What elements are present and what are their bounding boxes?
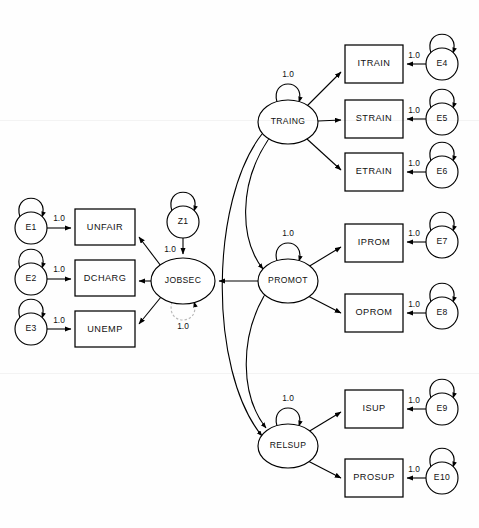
loading-traing-etrain (307, 139, 341, 170)
node-e3-label: E3 (25, 323, 36, 333)
node-itrain[interactable]: ITRAIN (345, 45, 403, 83)
node-e3[interactable]: E3 (15, 313, 47, 345)
node-e2[interactable]: E2 (15, 263, 47, 295)
node-e8[interactable]: E8 (426, 297, 458, 329)
node-prosup-label: PROSUP (353, 472, 395, 482)
variance-label-traing: 1.0 (282, 69, 294, 79)
sem-path-diagram: UNFAIR DCHARG UNEMP ITRAIN STRAIN ETRAIN (0, 0, 479, 528)
node-promot-label: PROMOT (268, 275, 308, 285)
node-traing[interactable]: TRAING (258, 100, 318, 144)
node-e8-label: E8 (436, 307, 447, 317)
loading-jobsec-unemp (139, 297, 161, 324)
variance-label-promot: 1.0 (282, 228, 294, 238)
node-e5[interactable]: E5 (426, 103, 458, 135)
node-isup-label: ISUP (362, 403, 385, 413)
node-z1-label: Z1 (178, 216, 189, 226)
node-dcharg-label: DCHARG (84, 273, 127, 283)
node-itrain-label: ITRAIN (358, 58, 391, 68)
loading-promot-oprom (308, 296, 341, 313)
edge-label-e7-iprom: 1.0 (408, 228, 420, 238)
node-e9-label: E9 (436, 403, 447, 413)
node-relsup-label: RELSUP (270, 440, 307, 450)
node-e7-label: E7 (436, 236, 447, 246)
edge-label-e2-dcharg: 1.0 (53, 264, 65, 274)
loading-promot-iprom (308, 247, 341, 267)
node-oprom-label: OPROM (356, 307, 393, 317)
node-e9[interactable]: E9 (426, 393, 458, 425)
edge-label-e1-unfair: 1.0 (53, 213, 65, 223)
node-prosup[interactable]: PROSUP (345, 459, 403, 497)
node-isup[interactable]: ISUP (345, 390, 403, 428)
node-oprom[interactable]: OPROM (345, 294, 403, 332)
node-e10[interactable]: E10 (426, 462, 458, 494)
diagram-canvas: UNFAIR DCHARG UNEMP ITRAIN STRAIN ETRAIN (0, 0, 479, 528)
edge-label-e6-etrain: 1.0 (408, 158, 420, 168)
node-strain[interactable]: STRAIN (345, 100, 403, 138)
node-e2-label: E2 (25, 273, 36, 283)
node-e6[interactable]: E6 (426, 156, 458, 188)
node-e4-label: E4 (436, 58, 447, 68)
edge-label-e8-oprom: 1.0 (408, 299, 420, 309)
loading-relsup-prosup (308, 461, 341, 478)
node-e6-label: E6 (436, 166, 447, 176)
loading-relsup-isup (308, 412, 341, 432)
node-strain-label: STRAIN (356, 113, 392, 123)
node-unemp-label: UNEMP (87, 324, 122, 334)
variance-loop-promot (276, 243, 300, 261)
node-unfair-label: UNFAIR (87, 222, 123, 232)
node-e7[interactable]: E7 (426, 226, 458, 258)
loading-traing-itrain (307, 72, 341, 106)
node-jobsec-label: JOBSEC (165, 275, 201, 285)
variance-loop-jobsec (171, 302, 195, 320)
node-unemp[interactable]: UNEMP (75, 311, 135, 347)
edge-label-z1-jobsec: 1.0 (164, 244, 176, 254)
node-z1[interactable]: Z1 (167, 206, 199, 238)
variance-loop-traing (276, 84, 300, 102)
node-unfair[interactable]: UNFAIR (75, 209, 135, 245)
covariance-traing-promot (246, 140, 268, 269)
latent-variable-ellipses: JOBSEC TRAING PROMOT RELSUP (151, 100, 318, 468)
edge-label-e9-isup: 1.0 (408, 395, 420, 405)
node-jobsec[interactable]: JOBSEC (151, 258, 215, 304)
edge-label-e5-strain: 1.0 (408, 105, 420, 115)
node-relsup[interactable]: RELSUP (258, 424, 318, 468)
covariance-promot-relsup (246, 296, 266, 428)
node-etrain-label: ETRAIN (356, 166, 392, 176)
node-e1-label: E1 (25, 222, 36, 232)
node-dcharg[interactable]: DCHARG (75, 260, 135, 296)
node-traing-label: TRAING (271, 116, 306, 126)
node-iprom-label: IPROM (358, 237, 390, 247)
edge-label-e4-itrain: 1.0 (408, 50, 420, 60)
node-etrain[interactable]: ETRAIN (345, 153, 403, 191)
edge-label-e10-prosup: 1.0 (408, 464, 420, 474)
node-promot[interactable]: PROMOT (258, 259, 318, 303)
loading-traing-strain (318, 120, 341, 121)
observed-variable-boxes: UNFAIR DCHARG UNEMP ITRAIN STRAIN ETRAIN (75, 45, 403, 497)
node-iprom[interactable]: IPROM (345, 224, 403, 262)
node-e1[interactable]: E1 (15, 212, 47, 244)
node-e4[interactable]: E4 (426, 48, 458, 80)
node-e5-label: E5 (436, 113, 447, 123)
variance-loop-relsup (276, 408, 300, 426)
variance-label-relsup: 1.0 (282, 393, 294, 403)
covariance-traing-relsup (222, 134, 262, 436)
variance-label-jobsec: 1.0 (177, 321, 189, 331)
node-e10-label: E10 (434, 472, 450, 482)
edge-label-e3-unemp: 1.0 (53, 315, 65, 325)
loading-jobsec-unfair (139, 237, 161, 266)
